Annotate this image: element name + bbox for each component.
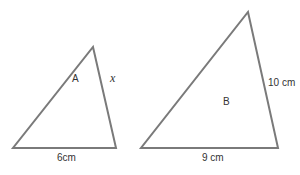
- triangle-b: [141, 12, 278, 148]
- diagram-canvas: [0, 0, 300, 175]
- triangle-b-label: B: [223, 97, 230, 107]
- triangle-a: [13, 47, 116, 148]
- triangle-a-label: A: [72, 74, 79, 84]
- triangle-b-base-label: 9 cm: [202, 153, 224, 163]
- triangle-a-side-label: x: [110, 72, 115, 84]
- triangle-b-side-label: 10 cm: [268, 78, 295, 88]
- triangle-a-base-label: 6cm: [57, 153, 76, 163]
